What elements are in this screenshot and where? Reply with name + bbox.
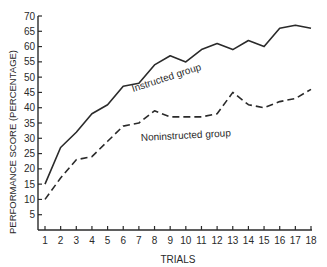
x-tick-label: 12 bbox=[212, 235, 224, 246]
y-tick-label: 70 bbox=[24, 11, 36, 22]
y-tick-label: 30 bbox=[24, 133, 36, 144]
y-tick-label: 10 bbox=[24, 194, 36, 205]
x-tick-label: 11 bbox=[196, 235, 207, 246]
chart-canvas: 510152025303540455055606570 123456789101… bbox=[0, 0, 327, 267]
x-axis-ticks: 123456789101112131415161718 bbox=[42, 226, 317, 246]
y-axis-ticks: 510152025303540455055606570 bbox=[24, 11, 42, 221]
y-tick-label: 40 bbox=[24, 102, 36, 113]
y-tick-label: 65 bbox=[24, 26, 36, 37]
x-tick-label: 9 bbox=[167, 235, 173, 246]
x-tick-label: 14 bbox=[243, 235, 255, 246]
x-tick-label: 15 bbox=[258, 235, 270, 246]
y-tick-label: 45 bbox=[24, 87, 36, 98]
x-tick-label: 8 bbox=[152, 235, 158, 246]
x-tick-label: 10 bbox=[180, 235, 192, 246]
x-tick-label: 18 bbox=[305, 235, 317, 246]
x-tick-label: 2 bbox=[58, 235, 64, 246]
x-axis-label: TRIALS bbox=[160, 254, 195, 265]
x-tick-label: 3 bbox=[74, 235, 80, 246]
axes bbox=[38, 16, 312, 230]
instructed-group-label: Instructed group bbox=[130, 61, 203, 94]
line-chart: 510152025303540455055606570 123456789101… bbox=[0, 0, 327, 267]
x-tick-label: 7 bbox=[136, 235, 142, 246]
series-lines bbox=[45, 25, 311, 199]
x-tick-label: 6 bbox=[120, 235, 126, 246]
noninstructed-group-line bbox=[45, 89, 311, 199]
x-tick-label: 1 bbox=[42, 235, 48, 246]
x-tick-label: 16 bbox=[274, 235, 286, 246]
y-tick-label: 60 bbox=[24, 41, 36, 52]
y-tick-label: 50 bbox=[24, 72, 36, 83]
y-tick-label: 25 bbox=[24, 148, 36, 159]
x-tick-label: 13 bbox=[227, 235, 239, 246]
x-tick-label: 5 bbox=[105, 235, 111, 246]
y-tick-label: 55 bbox=[24, 56, 36, 67]
noninstructed-group-label: Noninstructed group bbox=[141, 127, 232, 143]
y-tick-label: 20 bbox=[24, 163, 36, 174]
x-tick-label: 4 bbox=[89, 235, 95, 246]
x-tick-label: 17 bbox=[290, 235, 302, 246]
y-tick-label: 15 bbox=[24, 179, 36, 190]
y-axis-label: PERFORMANCE SCORE (PERCENTAGE) bbox=[7, 50, 18, 234]
y-tick-label: 5 bbox=[29, 209, 35, 220]
y-tick-label: 35 bbox=[24, 118, 36, 129]
